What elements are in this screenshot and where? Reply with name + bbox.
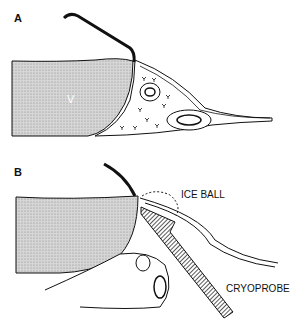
ice-ball-label: ICE BALL [181,189,225,200]
panel-a-label: A [14,12,22,24]
panel-b-label: B [14,166,22,178]
instrument [64,14,134,62]
region-v-label: V [67,93,75,105]
panel-a: A V [12,12,272,136]
panel-b: B ICE BALL CRYOPROBE [14,164,290,318]
cryoprobe-label: CRYOPROBE [226,283,290,294]
diagram: A V B [0,0,296,328]
